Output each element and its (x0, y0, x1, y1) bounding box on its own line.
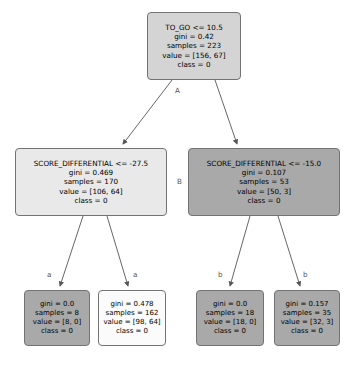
node-value: value = [50, 3] (237, 187, 291, 196)
node-value: value = [8, 0] (33, 318, 81, 327)
node-value: value = [98, 64] (103, 318, 160, 327)
node-condition: SCORE_DIFFERENTIAL <= -27.5 (34, 159, 148, 168)
node-class: class = 0 (74, 196, 107, 205)
node-samples: samples = 223 (167, 41, 221, 50)
node-condition: TO_GO <= 10.5 (165, 23, 223, 32)
edge-right-to-leaf3 (230, 216, 250, 286)
tree-node-leaf2: gini = 0.478 samples = 162 value = [98, … (98, 290, 166, 346)
edge-label-left-branch-a: a (47, 270, 51, 279)
node-samples: samples = 170 (64, 177, 118, 186)
node-class: class = 0 (214, 327, 246, 336)
node-gini: gini = 0.0 (40, 300, 74, 309)
node-value: value = [156, 67] (162, 51, 225, 60)
node-gini: gini = 0.107 (242, 168, 286, 177)
tree-node-leaf3: gini = 0.0 samples = 18 value = [18, 0] … (196, 290, 264, 346)
edge-root-to-right (215, 80, 237, 144)
edge-label-left-branch-b: b (218, 270, 223, 279)
node-samples: samples = 162 (106, 309, 159, 318)
node-samples: samples = 8 (35, 309, 79, 318)
tree-node-left: SCORE_DIFFERENTIAL <= -27.5 gini = 0.469… (15, 148, 167, 216)
node-samples: samples = 53 (239, 177, 289, 186)
edge-root-to-left (123, 80, 172, 144)
node-class: class = 0 (291, 327, 323, 336)
node-class: class = 0 (247, 196, 280, 205)
node-class: class = 0 (116, 327, 148, 336)
tree-node-leaf1: gini = 0.0 samples = 8 value = [8, 0] cl… (24, 290, 90, 346)
node-value: value = [32, 3] (281, 318, 334, 327)
tree-node-right: SCORE_DIFFERENTIAL <= -15.0 gini = 0.107… (188, 148, 340, 216)
node-condition: SCORE_DIFFERENTIAL <= -15.0 (207, 159, 321, 168)
node-gini: gini = 0.469 (69, 168, 113, 177)
node-class: class = 0 (177, 60, 210, 69)
node-class: class = 0 (41, 327, 73, 336)
tree-node-root: TO_GO <= 10.5 gini = 0.42 samples = 223 … (147, 12, 241, 80)
edge-label-right-branch-a: a (133, 270, 137, 279)
tree-node-leaf4: gini = 0.157 samples = 35 value = [32, 3… (274, 290, 340, 346)
edge-right-to-leaf4 (278, 216, 300, 286)
edge-label-right-branch-b: b (303, 270, 308, 279)
node-value: value = [106, 64] (59, 187, 122, 196)
node-gini: gini = 0.157 (285, 300, 328, 309)
decision-tree-diagram: TO_GO <= 10.5 gini = 0.42 samples = 223 … (0, 0, 359, 369)
edge-left-to-leaf1 (60, 216, 83, 286)
node-samples: samples = 18 (206, 309, 254, 318)
edge-label-mid-split: B (177, 177, 182, 186)
edge-left-to-leaf2 (107, 216, 128, 286)
edge-label-root-split: A (175, 86, 180, 95)
node-gini: gini = 0.478 (110, 300, 153, 309)
node-samples: samples = 35 (283, 309, 331, 318)
node-gini: gini = 0.42 (174, 32, 214, 41)
node-value: value = [18, 0] (204, 318, 257, 327)
node-gini: gini = 0.0 (213, 300, 247, 309)
